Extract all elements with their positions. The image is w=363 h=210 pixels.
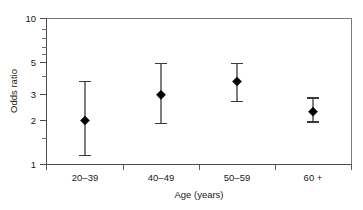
- y-axis-title: Odds ratio: [8, 69, 19, 113]
- y-tick-label-10: 10: [25, 13, 36, 24]
- y-tick-label-3: 3: [31, 89, 36, 100]
- x-tick-label-60-plus: 60 +: [304, 172, 323, 183]
- odds-ratio-error-bar-chart: 10 5 3 2 1 Odds ratio 20–39 40–49 50–59 …: [0, 0, 363, 210]
- x-tick-label-50-59: 50–59: [224, 172, 250, 183]
- x-tick-label-20-39: 20–39: [72, 172, 98, 183]
- figure-container: 10 5 3 2 1 Odds ratio 20–39 40–49 50–59 …: [0, 0, 363, 210]
- y-tick-label-1: 1: [31, 159, 36, 170]
- x-tick-label-40-49: 40–49: [148, 172, 174, 183]
- y-tick-label-5: 5: [31, 57, 36, 68]
- x-axis-title: Age (years): [174, 189, 223, 200]
- y-tick-label-2: 2: [31, 115, 36, 126]
